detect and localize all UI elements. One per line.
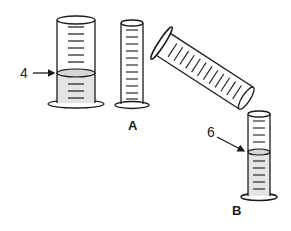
level-label-b: 6 (207, 125, 215, 139)
cylinder-b-rim (248, 111, 270, 117)
cylinder-tilted-graduations (168, 44, 241, 99)
level-label-a: 4 (20, 66, 28, 80)
cylinder-a-with-liquid (48, 16, 104, 108)
cylinder-a2-base (115, 102, 149, 109)
cylinder-a1-liquid-surface (57, 69, 95, 77)
arrow-level-b (217, 137, 244, 151)
cylinder-tilted-base (149, 26, 175, 61)
cylinder-b-with-liquid (241, 111, 277, 201)
cylinder-tilted (149, 26, 260, 117)
cylinder-a2-graduations (126, 30, 138, 99)
cylinder-a-empty (115, 20, 149, 109)
cylinder-b-liquid-surface (248, 149, 270, 155)
group-label-b: B (232, 204, 241, 218)
cylinder-a2-rim (121, 20, 143, 26)
group-label-a: A (128, 119, 137, 133)
diagram-canvas (0, 0, 291, 231)
cylinder-a1-rim (57, 16, 95, 24)
